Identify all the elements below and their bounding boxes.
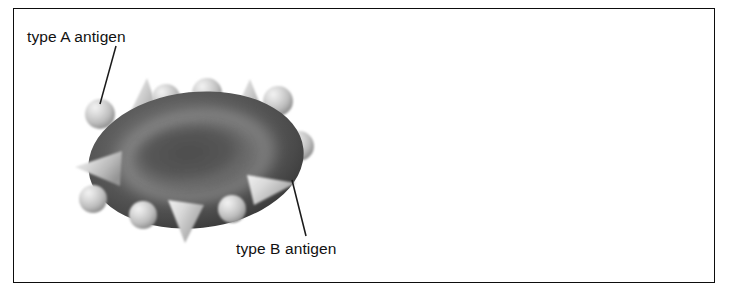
label-type-b-antigen: type B antigen (236, 241, 337, 257)
label-type-a-antigen: type A antigen (27, 29, 126, 45)
figure-frame (13, 8, 715, 283)
figure-root: type A antigen type B antigen (0, 0, 730, 299)
